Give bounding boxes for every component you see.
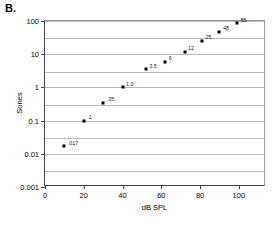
y-tick-label: 0.1 xyxy=(29,116,39,125)
gridline xyxy=(45,87,264,88)
gridline xyxy=(45,105,264,106)
plot-area: 0.0010.010.1110100 020406080100 .017.1.3… xyxy=(44,20,265,186)
data-point xyxy=(82,119,85,122)
y-tick-label: 0.001 xyxy=(20,183,39,192)
y-tick-label: 1 xyxy=(35,83,39,92)
x-tick xyxy=(200,185,201,189)
data-point xyxy=(102,101,105,104)
data-point xyxy=(235,22,238,25)
y-tick xyxy=(41,121,45,122)
x-tick-label: 0 xyxy=(43,191,47,200)
gridline xyxy=(45,38,264,39)
data-point xyxy=(183,50,186,53)
x-tick-label: 100 xyxy=(233,191,246,200)
data-point-label: 6 xyxy=(169,56,172,61)
data-point-label: 48 xyxy=(223,26,229,31)
data-point-label: .017 xyxy=(68,141,79,146)
data-point xyxy=(164,60,167,63)
y-tick-label: 0.01 xyxy=(24,149,39,158)
y-tick xyxy=(41,154,45,155)
x-tick-label: 40 xyxy=(118,191,126,200)
gridline xyxy=(45,171,264,172)
y-tick xyxy=(41,87,45,88)
data-point-label: .35 xyxy=(107,97,115,102)
panel-label: B. xyxy=(5,2,16,14)
data-point-label: 12 xyxy=(188,46,194,51)
x-tick xyxy=(84,185,85,189)
gridline xyxy=(45,138,264,139)
figure: B. Sones 0.0010.010.1110100 020406080100… xyxy=(0,0,275,229)
x-tick xyxy=(239,185,240,189)
y-tick-label: 10 xyxy=(31,50,39,59)
x-tick-label: 20 xyxy=(80,191,88,200)
gridline xyxy=(45,121,264,122)
x-tick xyxy=(45,185,46,189)
y-tick xyxy=(41,21,45,22)
data-point-label: 85 xyxy=(240,18,246,23)
data-point xyxy=(201,39,204,42)
data-point xyxy=(121,86,124,89)
data-point-label: 1.0 xyxy=(126,82,134,87)
x-tick-label: 60 xyxy=(157,191,165,200)
data-point-label: 25 xyxy=(206,35,212,40)
gridline xyxy=(45,154,264,155)
data-point xyxy=(218,30,221,33)
y-axis-label: Sones xyxy=(15,92,24,113)
data-point xyxy=(144,68,147,71)
x-tick xyxy=(123,185,124,189)
gridline xyxy=(45,72,264,73)
y-tick-label: 100 xyxy=(26,17,39,26)
gridline xyxy=(45,54,264,55)
data-point-label: 3.5 xyxy=(149,64,157,69)
x-axis-label: dB SPL xyxy=(44,203,265,212)
x-tick-label: 80 xyxy=(196,191,204,200)
x-tick xyxy=(161,185,162,189)
data-point-label: .1 xyxy=(87,115,92,120)
y-tick xyxy=(41,54,45,55)
gridline xyxy=(45,21,264,22)
y-axis-label-wrapper: Sones xyxy=(11,20,23,186)
data-point xyxy=(63,145,66,148)
